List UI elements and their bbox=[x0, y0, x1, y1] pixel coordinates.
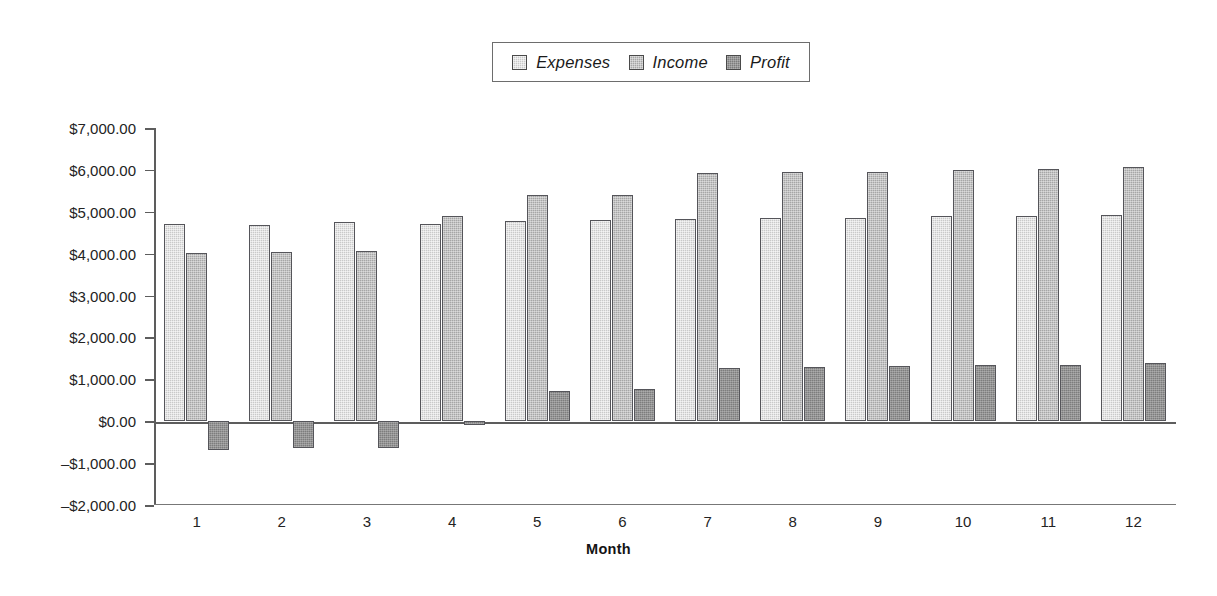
bar-income-month-8 bbox=[782, 172, 803, 421]
bar-income-month-9 bbox=[867, 172, 888, 422]
x-axis-tick-label: 10 bbox=[955, 513, 972, 530]
bar-profit-month-7 bbox=[719, 368, 740, 421]
y-axis-tick-label: $5,000.00 bbox=[69, 203, 136, 220]
y-axis-tick bbox=[145, 296, 154, 298]
y-axis-tick-label: –$2,000.00 bbox=[61, 497, 136, 514]
x-axis-tick-label: 2 bbox=[278, 513, 286, 530]
x-axis-tick-label: 7 bbox=[703, 513, 711, 530]
bar-expenses-month-3 bbox=[334, 222, 355, 421]
x-axis-tick-label: 1 bbox=[192, 513, 200, 530]
bar-income-month-11 bbox=[1038, 169, 1059, 421]
bar-income-month-5 bbox=[527, 195, 548, 421]
bar-income-month-12 bbox=[1123, 167, 1144, 421]
y-axis-line bbox=[154, 128, 156, 505]
bar-expenses-month-7 bbox=[675, 219, 696, 421]
y-axis-tick-label: $7,000.00 bbox=[69, 120, 136, 137]
y-axis-tick bbox=[145, 421, 154, 423]
y-axis-tick bbox=[145, 128, 154, 130]
x-axis-tick-label: 6 bbox=[618, 513, 626, 530]
bar-profit-month-8 bbox=[804, 367, 825, 421]
bar-profit-month-6 bbox=[634, 389, 655, 421]
bar-expenses-month-12 bbox=[1101, 215, 1122, 421]
bar-expenses-month-9 bbox=[845, 218, 866, 422]
bar-profit-month-5 bbox=[549, 391, 570, 421]
y-axis-tick bbox=[145, 212, 154, 214]
y-axis-tick-label: $6,000.00 bbox=[69, 161, 136, 178]
bar-income-month-2 bbox=[271, 252, 292, 421]
bar-income-month-3 bbox=[356, 251, 377, 421]
bar-income-month-4 bbox=[442, 216, 463, 421]
x-axis-title: Month bbox=[0, 541, 1217, 557]
bar-expenses-month-10 bbox=[931, 216, 952, 421]
y-axis-tick bbox=[145, 463, 154, 465]
y-axis-tick bbox=[145, 337, 154, 339]
x-axis-line bbox=[154, 504, 1176, 505]
y-axis-tick-label: $4,000.00 bbox=[69, 245, 136, 262]
bar-expenses-month-2 bbox=[249, 225, 270, 421]
y-axis-tick-label: $1,000.00 bbox=[69, 371, 136, 388]
x-axis-tick-label: 4 bbox=[448, 513, 456, 530]
bar-chart: ExpensesIncomeProfit Month $7,000.00$6,0… bbox=[0, 0, 1217, 596]
y-axis-tick bbox=[145, 254, 154, 256]
bar-profit-month-10 bbox=[975, 365, 996, 421]
bar-profit-month-11 bbox=[1060, 365, 1081, 422]
legend-label: Profit bbox=[750, 53, 790, 72]
legend-item-expenses: Expenses bbox=[512, 53, 610, 72]
x-axis-tick-label: 3 bbox=[363, 513, 371, 530]
legend-item-income: Income bbox=[629, 53, 708, 72]
bar-profit-month-12 bbox=[1145, 363, 1166, 421]
bar-expenses-month-4 bbox=[420, 224, 441, 422]
y-axis-tick-label: $3,000.00 bbox=[69, 287, 136, 304]
x-axis-tick-label: 12 bbox=[1125, 513, 1142, 530]
bar-income-month-10 bbox=[953, 170, 974, 421]
bar-expenses-month-11 bbox=[1016, 216, 1037, 422]
legend-label: Expenses bbox=[536, 53, 610, 72]
x-axis-tick-label: 8 bbox=[789, 513, 797, 530]
chart-legend: ExpensesIncomeProfit bbox=[492, 42, 810, 82]
bar-profit-month-3 bbox=[378, 421, 399, 447]
x-axis-tick-label: 11 bbox=[1040, 513, 1056, 530]
x-axis-tick-label: 9 bbox=[874, 513, 882, 530]
legend-swatch-icon bbox=[512, 55, 527, 70]
y-axis-tick bbox=[145, 505, 154, 507]
bar-profit-month-9 bbox=[889, 366, 910, 421]
legend-label: Income bbox=[653, 53, 708, 72]
legend-item-profit: Profit bbox=[726, 53, 790, 72]
bar-expenses-month-6 bbox=[590, 220, 611, 421]
bar-expenses-month-5 bbox=[505, 221, 526, 422]
y-axis-tick bbox=[145, 379, 154, 381]
y-axis-tick-label: –$1,000.00 bbox=[61, 455, 136, 472]
bar-profit-month-2 bbox=[293, 421, 314, 448]
y-axis-tick bbox=[145, 170, 154, 172]
y-axis-tick-label: $2,000.00 bbox=[69, 329, 136, 346]
bar-expenses-month-8 bbox=[760, 218, 781, 421]
legend-swatch-icon bbox=[629, 55, 644, 70]
y-axis-tick-label: $0.00 bbox=[98, 413, 136, 430]
legend-swatch-icon bbox=[726, 55, 741, 70]
bar-income-month-1 bbox=[186, 253, 207, 421]
bar-expenses-month-1 bbox=[164, 224, 185, 421]
plot-area bbox=[154, 128, 1176, 505]
bar-income-month-7 bbox=[697, 173, 718, 421]
bar-profit-month-4 bbox=[464, 421, 485, 425]
bar-income-month-6 bbox=[612, 195, 633, 421]
x-axis-tick-label: 5 bbox=[533, 513, 541, 530]
bar-profit-month-1 bbox=[208, 421, 229, 449]
